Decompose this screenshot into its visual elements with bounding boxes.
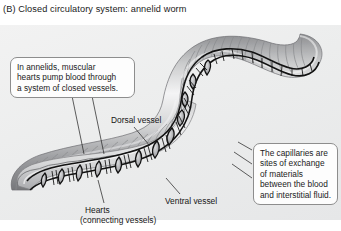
leader-callout-right-2 [234,152,252,164]
label-hearts-main: Hearts [85,205,110,215]
callout-left-line-1: In annelids, muscular [17,62,95,72]
label-hearts: Hearts (connecting vessels) [85,205,156,225]
leader-hearts [98,180,104,203]
label-ventral-vessel: Ventral vessel [165,196,217,206]
callout-right-line-2: sites of exchange [260,158,325,168]
callout-right-line-5: and interstitial fluid. [260,190,331,200]
callout-left-line-3: a system of closed vessels. [17,83,118,93]
callout-right-line-1: The capillaries are [260,148,328,158]
callout-annelid-hearts: In annelids, muscular hearts pump blood … [10,57,135,98]
callout-right-line-4: between the blood [260,179,328,189]
leader-ventral [166,178,180,194]
label-hearts-sub: (connecting vessels) [80,215,156,225]
callout-right-line-3: of materials [260,169,303,179]
figure-closed-circulatory-system-annelid: (B) Closed circulatory system: annelid w… [0,0,341,231]
callout-capillary-exchange: The capillaries are sites of exchange of… [253,143,338,205]
leader-callout-right-3 [232,164,252,178]
label-dorsal-vessel: Dorsal vessel [111,115,161,125]
callout-left-line-2: hearts pump blood through [17,72,116,82]
leader-callout-right [238,142,252,150]
